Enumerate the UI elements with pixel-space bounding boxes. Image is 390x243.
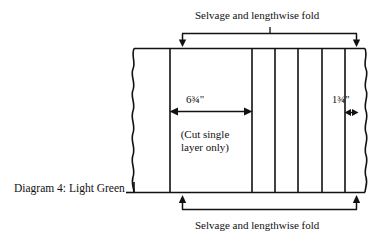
figure-caption: Diagram 4: Light Green bbox=[14, 182, 125, 195]
bottom-selvage-bracket bbox=[179, 195, 360, 210]
strip-width-dimension-arrow bbox=[345, 109, 359, 116]
top-selvage-label: Selvage and lengthwise fold bbox=[195, 9, 319, 22]
cut-note: (Cut single layer only) bbox=[157, 128, 253, 153]
diagram-figure: Selvage and lengthwise fold Selvage and … bbox=[0, 0, 390, 243]
cut-note-line-1: (Cut single bbox=[157, 128, 253, 141]
panel-width-dimension-arrow bbox=[170, 108, 253, 116]
bottom-selvage-label: Selvage and lengthwise fold bbox=[195, 219, 319, 232]
left-raw-edge bbox=[132, 49, 134, 193]
diagram-svg bbox=[0, 0, 390, 243]
panel-width-label: 6¾" bbox=[186, 93, 204, 106]
strip-width-label: 1¾" bbox=[332, 94, 349, 106]
right-raw-edge bbox=[365, 49, 367, 193]
top-selvage-bracket bbox=[179, 27, 360, 47]
cut-note-line-2: layer only) bbox=[157, 141, 253, 154]
